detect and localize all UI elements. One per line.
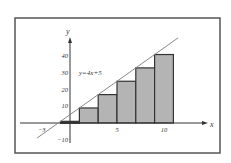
x-tick-label: −3	[38, 126, 46, 133]
y-tick-label: 10	[62, 102, 69, 109]
y-tick-label: 30	[61, 69, 69, 76]
x-tick-label: 10	[161, 126, 168, 133]
y-axis-label: y	[65, 27, 70, 36]
y-tick-label: 20	[62, 86, 69, 93]
y-tick-label: −10	[57, 136, 69, 143]
bar	[155, 55, 174, 123]
bar	[98, 95, 117, 123]
bar	[79, 108, 98, 123]
y-tick-label: 40	[62, 52, 69, 59]
chart-figure: y=4x+5 x y −3510−1010203040	[0, 0, 231, 163]
equation-annotation: y=4x+5	[78, 69, 102, 77]
x-axis-label: x	[209, 120, 214, 129]
bar	[136, 68, 155, 123]
bar	[117, 81, 136, 123]
